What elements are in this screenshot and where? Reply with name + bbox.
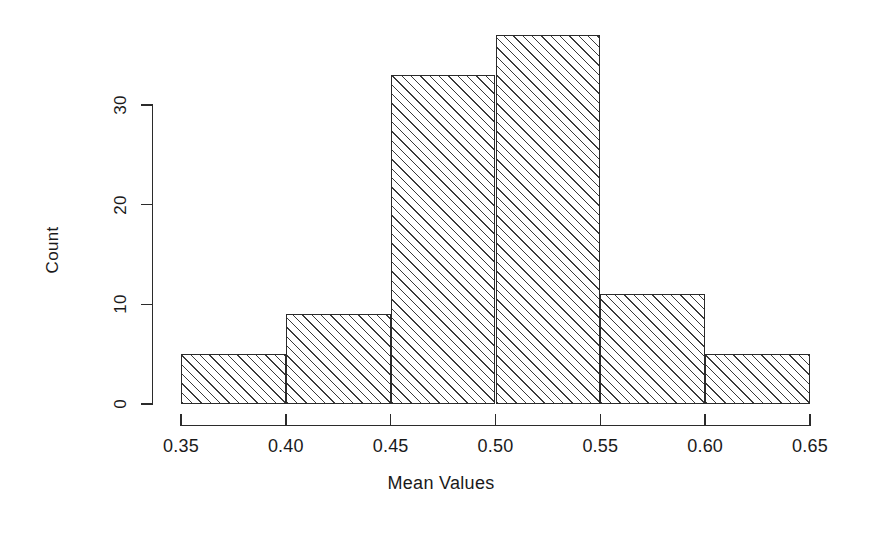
y-axis-tick-label: 20 — [108, 194, 134, 216]
y-axis-tick — [141, 204, 153, 205]
x-axis-tick — [495, 414, 496, 426]
x-axis-tick — [180, 414, 181, 426]
y-axis-tick-label-text: 0 — [111, 399, 131, 409]
y-axis-tick — [141, 104, 153, 105]
histogram-bar — [496, 35, 601, 404]
x-axis-tick — [390, 414, 391, 426]
histogram-bar — [286, 314, 391, 404]
y-axis-line — [152, 105, 153, 405]
y-axis-title-text: Count — [43, 227, 63, 274]
x-axis-tick-label: 0.55 — [555, 436, 645, 457]
y-axis-tick-label-text: 20 — [111, 195, 131, 214]
histogram-bar — [391, 75, 496, 404]
histogram-bar — [181, 354, 286, 404]
y-axis-tick-label: 10 — [108, 293, 134, 315]
x-axis-tick — [809, 414, 810, 426]
y-axis-tick-label-text: 30 — [111, 95, 131, 114]
x-axis-tick-label: 0.50 — [451, 436, 541, 457]
x-axis-title: Mean Values — [0, 473, 882, 494]
x-axis-tick-label: 0.65 — [765, 436, 855, 457]
histogram-bar — [705, 354, 810, 404]
x-axis-tick-label: 0.40 — [241, 436, 331, 457]
y-axis-title: Count — [38, 180, 68, 320]
y-axis-tick-label: 0 — [108, 393, 134, 415]
x-axis-tick-label: 0.60 — [660, 436, 750, 457]
x-axis-tick-label: 0.35 — [136, 436, 226, 457]
y-axis-tick-label: 30 — [108, 94, 134, 116]
x-axis-tick — [704, 414, 705, 426]
histogram-bar — [600, 294, 705, 404]
y-axis-tick-label-text: 10 — [111, 295, 131, 314]
y-axis-tick — [141, 304, 153, 305]
y-axis-tick — [141, 403, 153, 404]
x-axis-tick — [600, 414, 601, 426]
x-axis-tick — [285, 414, 286, 426]
x-axis-tick-label: 0.45 — [346, 436, 436, 457]
histogram-plot: 0102030 0.350.400.450.500.550.600.65 Cou… — [0, 0, 882, 535]
